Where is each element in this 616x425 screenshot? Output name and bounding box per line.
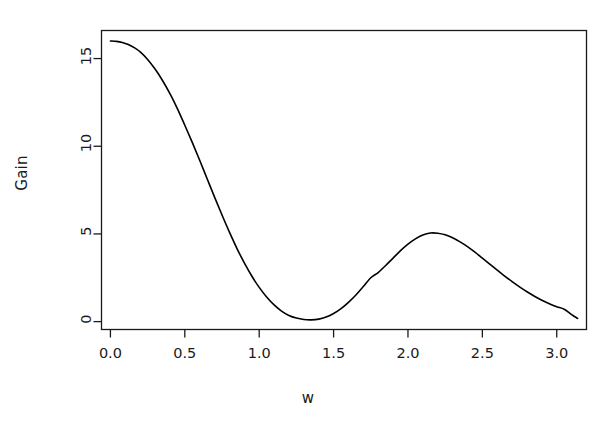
- x-tick-label: 0.0: [99, 345, 122, 361]
- x-tick-label: 3.0: [545, 345, 568, 361]
- x-axis-title-text: w: [0, 389, 616, 407]
- gain-plot-figure: 0.00.51.01.52.02.53.0 051015 Gain w: [0, 0, 616, 425]
- y-tick-label: 0: [78, 289, 94, 349]
- y-axis-title-text: Gain: [13, 143, 31, 203]
- x-tick-label: 2.5: [471, 345, 494, 361]
- y-tick-label: 15: [78, 26, 94, 86]
- y-tick-label: 5: [78, 201, 94, 261]
- x-tick-label: 1.0: [248, 345, 271, 361]
- x-tick-label: 0.5: [173, 345, 196, 361]
- x-tick-label: 2.0: [396, 345, 419, 361]
- y-tick-label: 10: [78, 113, 94, 173]
- x-tick-label: 1.5: [322, 345, 345, 361]
